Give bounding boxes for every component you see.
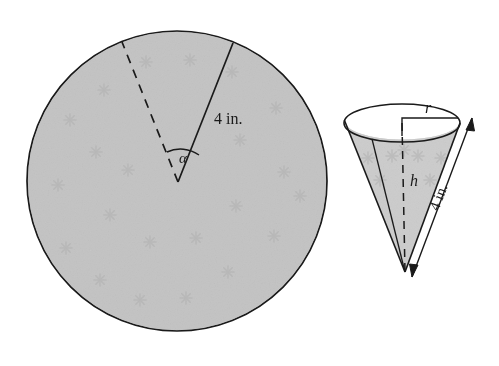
disk-radius-label: 4 in.: [214, 110, 242, 127]
cone-slant-arrowhead-bottom: [410, 264, 419, 277]
sector-angle-label: α: [179, 150, 188, 166]
cone-height-label: h: [410, 172, 418, 189]
geometry-figure: α 4 in.: [0, 0, 499, 366]
cone-group: r h 4 in.: [344, 99, 475, 277]
cone-slant-arrowhead-top: [466, 118, 475, 131]
paper-disk-group: α 4 in.: [27, 31, 327, 331]
figure-canvas: α 4 in.: [0, 0, 499, 366]
cone-radius-label: r: [425, 99, 432, 116]
